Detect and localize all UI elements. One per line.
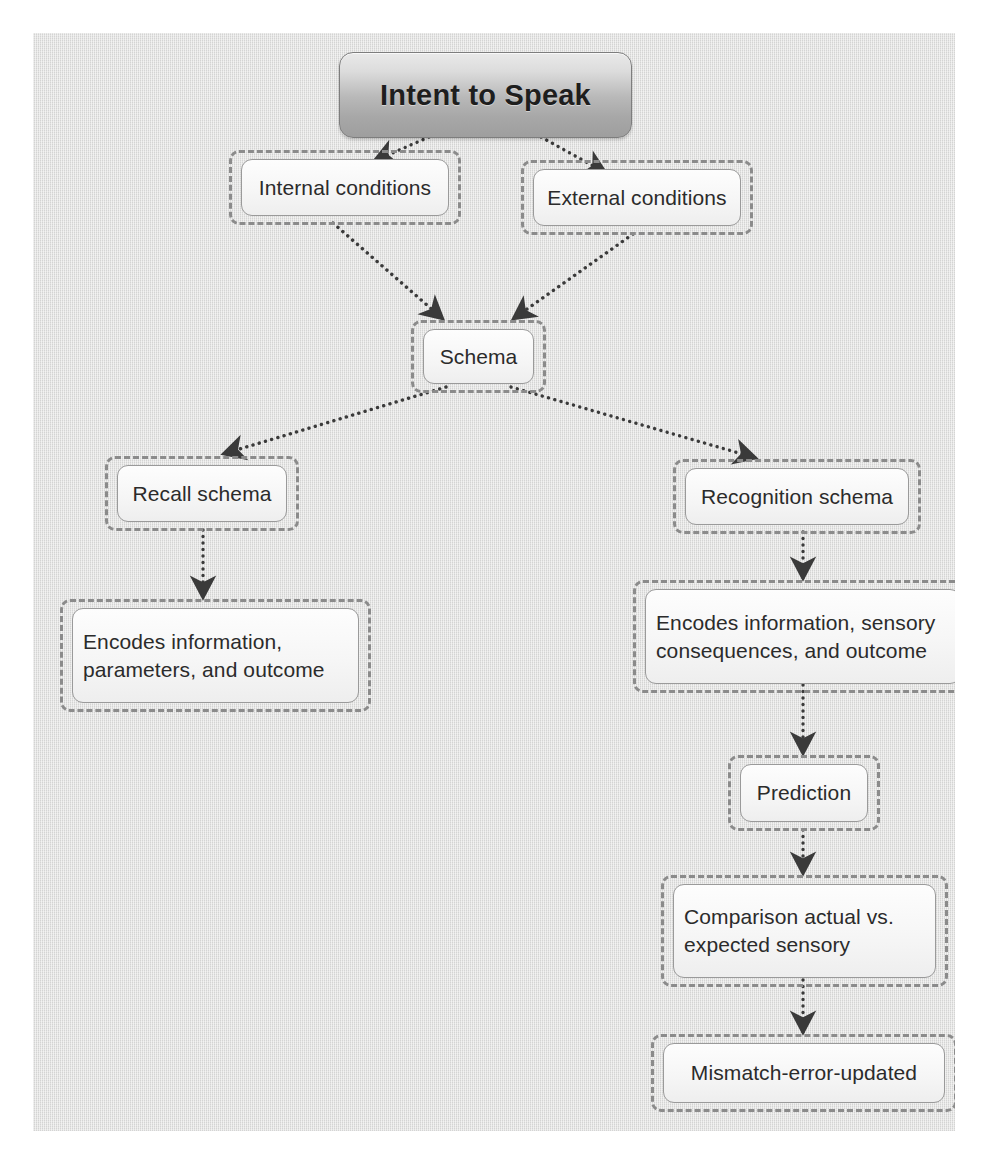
intent-to-speak-label: Intent to Speak [380, 79, 591, 112]
mismatch-label: Mismatch-error-updated [691, 1059, 917, 1087]
inner-box: Encodes information, sensory consequence… [645, 589, 955, 684]
recall-schema-label: Recall schema [132, 480, 271, 508]
inner-box: Comparison actual vs. expected sensory [673, 884, 936, 978]
node-recognition-schema[interactable]: Recognition schema [673, 459, 921, 534]
prediction-label: Prediction [757, 779, 851, 807]
recognition-encodes-label: Encodes information, sensory consequence… [656, 609, 935, 664]
inner-box: External conditions [533, 169, 741, 226]
diagram-stage: Intent to Speak Internal conditions Exte… [0, 0, 1006, 1158]
internal-conditions-label: Internal conditions [259, 174, 431, 202]
inner-box: Internal conditions [241, 159, 449, 216]
recall-encodes-label: Encodes information, parameters, and out… [83, 628, 325, 683]
node-recognition-encodes[interactable]: Encodes information, sensory consequence… [633, 580, 955, 693]
node-comparison[interactable]: Comparison actual vs. expected sensory [661, 875, 948, 987]
inner-box: Prediction [740, 764, 868, 822]
comparison-label: Comparison actual vs. expected sensory [684, 903, 894, 958]
diagram-canvas: Intent to Speak Internal conditions Exte… [33, 33, 955, 1131]
edge-external-schema [513, 234, 633, 319]
node-schema[interactable]: Schema [411, 320, 546, 393]
node-prediction[interactable]: Prediction [728, 755, 880, 831]
edge-internal-schema [333, 223, 443, 319]
inner-box: Recognition schema [685, 468, 909, 525]
node-intent-to-speak[interactable]: Intent to Speak [339, 52, 632, 138]
edge-schema-recognition [511, 387, 756, 458]
inner-box: Encodes information, parameters, and out… [72, 608, 359, 703]
node-internal-conditions[interactable]: Internal conditions [229, 150, 461, 225]
inner-box: Recall schema [117, 465, 287, 522]
schema-label: Schema [440, 343, 518, 371]
recognition-schema-label: Recognition schema [701, 483, 893, 511]
intent-to-speak-box: Intent to Speak [339, 52, 632, 138]
edge-schema-recall [223, 387, 446, 454]
node-recall-encodes[interactable]: Encodes information, parameters, and out… [60, 599, 371, 712]
node-recall-schema[interactable]: Recall schema [105, 456, 299, 531]
inner-box: Mismatch-error-updated [663, 1043, 945, 1103]
external-conditions-label: External conditions [547, 184, 726, 212]
node-external-conditions[interactable]: External conditions [521, 160, 753, 235]
inner-box: Schema [423, 329, 534, 384]
node-mismatch[interactable]: Mismatch-error-updated [651, 1034, 955, 1112]
